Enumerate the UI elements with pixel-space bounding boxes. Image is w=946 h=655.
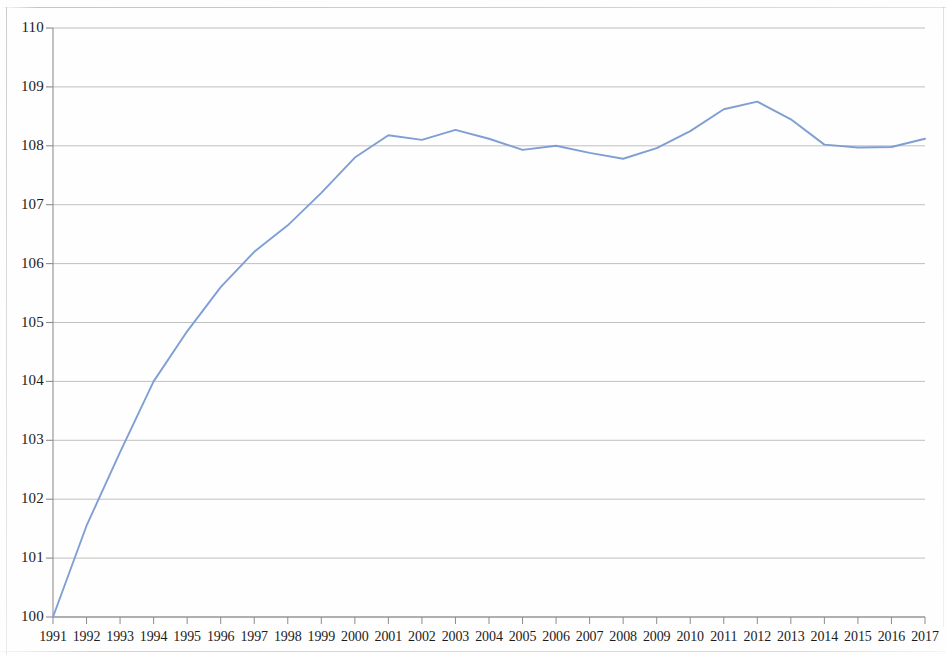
x-axis-ticks (53, 617, 925, 624)
y-axis-tick-label: 104 (8, 372, 44, 389)
y-axis-tick-label: 105 (8, 314, 44, 331)
data-series-line (53, 102, 925, 617)
y-axis-tick-label: 108 (8, 137, 44, 154)
y-axis-tick-label: 109 (8, 78, 44, 95)
y-axis-tick-label: 101 (8, 549, 44, 566)
y-axis-tick-label: 106 (8, 255, 44, 272)
y-axis-tick-label: 107 (8, 196, 44, 213)
gridlines (53, 28, 925, 617)
y-axis-tick-label: 103 (8, 431, 44, 448)
x-axis-tick-label: 2017 (905, 629, 945, 645)
y-axis-tick-label: 102 (8, 490, 44, 507)
y-axis-tick-label: 100 (8, 608, 44, 625)
chart-page: 110109108107106105104103102101100 199119… (0, 0, 946, 655)
chart-plot-svg (0, 0, 946, 655)
y-axis-ticks (46, 28, 53, 617)
y-axis-tick-label: 110 (8, 19, 44, 36)
line-chart: 110109108107106105104103102101100 199119… (0, 0, 946, 655)
